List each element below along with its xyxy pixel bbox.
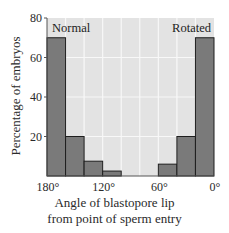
histogram-bar bbox=[47, 38, 66, 176]
x-axis-label-line1: Angle of blastopore lip bbox=[0, 195, 229, 211]
y-tick-label: 20 bbox=[30, 130, 42, 144]
y-tick-label: 60 bbox=[30, 51, 42, 65]
x-tick-labels: 180°120°60°0° bbox=[37, 180, 221, 194]
y-tick-label: 40 bbox=[30, 90, 42, 104]
histogram-bar bbox=[103, 171, 122, 176]
annotation-rotated: Rotated bbox=[172, 21, 212, 35]
histogram-bar bbox=[66, 137, 85, 177]
x-tick-label: 0° bbox=[210, 180, 221, 194]
y-tick-labels: 20406080 bbox=[30, 11, 47, 144]
histogram-bar bbox=[158, 164, 177, 176]
x-tick-label: 60° bbox=[151, 180, 168, 194]
x-tick-label: 120° bbox=[92, 180, 115, 194]
histogram-bar bbox=[195, 38, 214, 176]
annotation-normal: Normal bbox=[52, 21, 91, 35]
y-tick-label: 80 bbox=[30, 11, 42, 25]
x-axis-label-line2: from point of sperm entry bbox=[0, 211, 229, 227]
histogram-bar bbox=[177, 137, 196, 177]
histogram-bar bbox=[84, 161, 103, 176]
y-axis-label: Percentage of embryos bbox=[8, 36, 24, 156]
x-tick-label: 180° bbox=[37, 180, 60, 194]
